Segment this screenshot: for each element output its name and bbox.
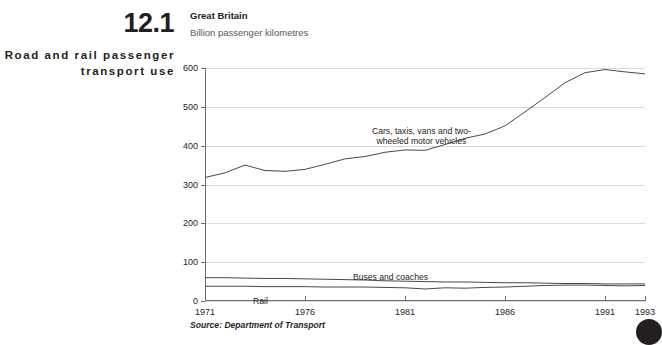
x-tick-label: 1981 [395,307,415,317]
x-tick-label: 1976 [295,307,315,317]
x-tick-label: 1991 [595,307,615,317]
annotation-cars: Cars, taxis, vans and two- wheeled motor… [372,126,471,146]
y-tick-label: 600 [183,63,198,73]
figure-number: 12.1 [0,8,178,38]
series-lines [205,68,645,301]
y-tick-label: 0 [193,296,198,306]
figure-title-block: 12.1 Road and rail passenger transport u… [0,8,178,79]
plot-area: 0100200300400500600 19711976198119861991… [190,58,652,303]
chart-panel: Great Britain Billion passenger kilometr… [190,10,652,335]
page-title: Road and rail passenger transport use [0,47,178,79]
annotation-buses: Buses and coaches [353,272,428,282]
chart-region-label: Great Britain [190,10,652,21]
chart-units-label: Billion passenger kilometres [190,27,652,38]
y-tick [201,301,205,302]
annotation-rail: Rail [253,296,268,306]
plot-inner: 0100200300400500600 19711976198119861991… [205,68,645,301]
gridline [205,301,645,302]
source-note: Source: Department of Transport [190,320,325,330]
x-tick-label: 1993 [635,307,655,317]
x-tick-label: 1971 [195,307,215,317]
y-tick-label: 300 [183,180,198,190]
series-line [205,70,645,178]
y-tick-label: 500 [183,102,198,112]
x-tick-label: 1986 [495,307,515,317]
y-tick-label: 200 [183,218,198,228]
series-line [205,285,645,289]
y-tick-label: 400 [183,141,198,151]
corner-mark-icon [636,319,662,345]
x-tick [645,296,646,301]
y-tick-label: 100 [183,257,198,267]
